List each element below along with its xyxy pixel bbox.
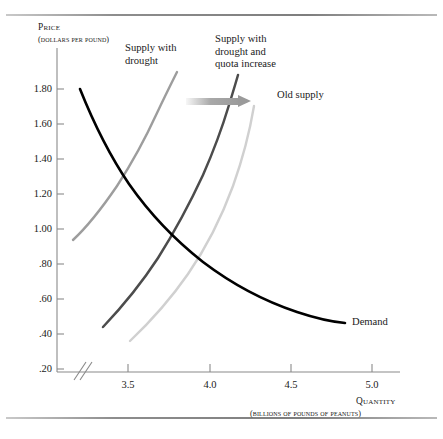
label-old-supply: Old supply <box>277 89 324 102</box>
figure-container: Price (dollars per pound) 1.80 1.60 1.40… <box>0 0 443 439</box>
x-axis-title: Quantity <box>356 396 395 407</box>
y-tick-label-20: .20 <box>18 363 52 375</box>
label-supply-drought-quota: Supply with drought and quota increase <box>215 33 321 71</box>
x-axis-ticks <box>128 364 372 372</box>
x-tick-label-4-0: 4.0 <box>190 379 230 391</box>
arrow-bar-icon <box>186 98 241 105</box>
y-tick-label-80: .80 <box>18 258 52 270</box>
x-tick-label-5-0: 5.0 <box>352 379 392 391</box>
arrow-head-icon <box>238 95 251 107</box>
y-tick-label-1-00: 1.00 <box>18 223 52 235</box>
y-tick-label-40: .40 <box>18 328 52 340</box>
curve-demand <box>80 89 345 323</box>
y-tick-label-60: .60 <box>18 293 52 305</box>
shift-arrow-annotation <box>186 95 258 108</box>
label-supply-drought-quota-line1: Supply with <box>215 33 321 46</box>
x-axis-subtitle: (billions of pounds of peanuts) <box>250 409 361 419</box>
label-supply-with-drought-line1: Supply with <box>125 42 211 55</box>
x-tick-label-3-5: 3.5 <box>108 379 148 391</box>
label-supply-with-drought-line2: drought <box>125 55 211 68</box>
y-tick-label-1-60: 1.60 <box>18 118 52 130</box>
curve-supply-with-drought <box>73 72 177 240</box>
label-supply-drought-quota-line3: quota increase <box>215 58 321 71</box>
x-tick-label-4-5: 4.5 <box>271 379 311 391</box>
label-supply-drought-quota-line2: drought and <box>215 46 321 59</box>
label-supply-with-drought: Supply with drought <box>125 42 211 67</box>
y-tick-label-1-80: 1.80 <box>18 83 52 95</box>
x-axis-break-marks <box>74 362 92 380</box>
curve-old-supply <box>130 106 254 341</box>
y-axis-ticks <box>57 89 64 369</box>
y-axis-title: Price <box>38 22 60 33</box>
curve-supply-drought-quota <box>103 75 238 327</box>
label-demand: Demand <box>352 316 388 329</box>
y-tick-label-1-40: 1.40 <box>18 153 52 165</box>
y-axis-subtitle: (dollars per pound) <box>38 35 109 45</box>
y-tick-label-1-20: 1.20 <box>18 188 52 200</box>
